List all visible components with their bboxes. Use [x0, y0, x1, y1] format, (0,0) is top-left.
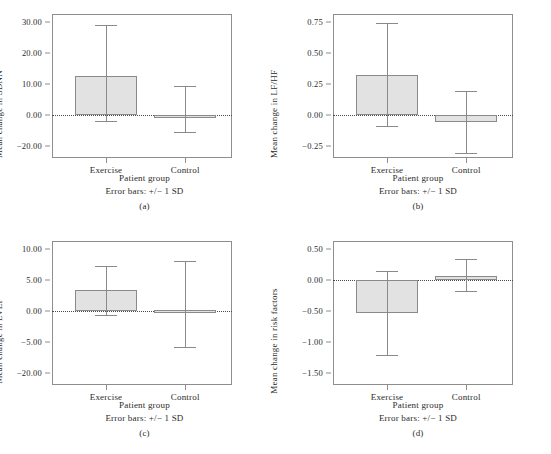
error-cap-control-lower — [174, 347, 196, 348]
panel-d-y-tick — [326, 342, 331, 343]
panel-a-x-tick — [106, 158, 107, 163]
error-cap-exercise-upper — [376, 23, 398, 24]
error-cap-control-lower — [455, 153, 477, 154]
panel-d-x-axis-title: Patient group — [275, 400, 551, 410]
figure-panel-grid: Mean change in SDNN 30.0020.0010.000.00−… — [0, 0, 551, 454]
panel-a-y-tick — [45, 53, 50, 54]
panel-d-y-tick — [326, 373, 331, 374]
error-bar-exercise — [387, 23, 388, 126]
panel-d-plot-area — [333, 241, 513, 385]
panel-c-y-tick-label: 5.00 — [26, 275, 42, 285]
panel-b-y-axis-label: Mean change in LF/HF — [269, 69, 279, 157]
panel-c-x-axis-title: Patient group — [0, 400, 275, 410]
error-cap-exercise-upper — [376, 271, 398, 272]
panel-a: Mean change in SDNN 30.0020.0010.000.00−… — [0, 0, 275, 227]
panel-c-y-tick-label: −20.00 — [17, 368, 42, 378]
error-bar-exercise — [106, 25, 107, 120]
panel-d-y-tick-label: −1.00 — [302, 337, 323, 347]
error-cap-exercise-upper — [95, 266, 117, 267]
error-bar-exercise — [106, 266, 107, 315]
panel-b-id: (b) — [275, 201, 551, 211]
panel-b-x-tick — [466, 158, 467, 163]
panel-d-y-tick — [326, 249, 331, 250]
error-cap-control-upper — [174, 261, 196, 262]
panel-c-x-tick — [185, 385, 186, 390]
panel-d: Mean change in risk factors 0.500.00−0.5… — [275, 227, 551, 454]
panel-c-y-tick — [45, 311, 50, 312]
panel-a-y-tick — [45, 115, 50, 116]
panel-b-y-tick-label: 0.50 — [307, 48, 323, 58]
panel-d-x-tick — [466, 385, 467, 390]
panel-b-y-tick-label: 0.75 — [307, 17, 323, 27]
panel-b-y-tick-label: −0.25 — [302, 141, 323, 151]
panel-c-y-tick — [45, 280, 50, 281]
panel-c-y-tick-label: 0.00 — [26, 306, 42, 316]
error-cap-exercise-lower — [376, 126, 398, 127]
error-bar-control — [466, 91, 467, 153]
panel-d-y-tick-label: 0.50 — [307, 244, 323, 254]
panel-c-y-tick-label: −5.00 — [21, 337, 42, 347]
panel-a-plot: 30.0020.0010.000.00−20.00 ExerciseContro… — [52, 14, 232, 158]
panel-d-y-tick-label: 0.00 — [307, 275, 323, 285]
panel-a-y-tick — [45, 22, 50, 23]
error-cap-control-upper — [174, 86, 196, 87]
panel-a-y-axis-label: Mean change in SDNN — [0, 69, 4, 157]
panel-b-x-tick — [387, 158, 388, 163]
panel-a-y-tick-label: 0.00 — [26, 110, 42, 120]
panel-b-y-tick — [326, 115, 331, 116]
panel-c: Mean change in LVEF 10.005.000.00−5.00−2… — [0, 227, 275, 454]
panel-d-y-tick-label: −1.50 — [302, 368, 323, 378]
panel-c-y-tick — [45, 249, 50, 250]
panel-b-x-axis-title: Patient group — [275, 173, 551, 183]
panel-c-x-tick — [106, 385, 107, 390]
panel-c-plot: 10.005.000.00−5.00−20.00 ExerciseControl — [52, 241, 232, 385]
panel-c-y-tick-label: 10.00 — [22, 244, 42, 254]
panel-b-y-tick — [326, 22, 331, 23]
panel-a-id: (a) — [0, 201, 275, 211]
error-cap-control-upper — [455, 91, 477, 92]
panel-b-y-tick — [326, 146, 331, 147]
panel-d-y-tick — [326, 311, 331, 312]
panel-b-y-tick — [326, 84, 331, 85]
panel-a-x-tick — [185, 158, 186, 163]
panel-c-error-note: Error bars: +/− 1 SD — [0, 413, 275, 423]
panel-b-plot-area — [333, 14, 513, 158]
panel-d-y-tick-label: −0.50 — [302, 306, 323, 316]
panel-d-y-axis-label: Mean change in risk factors — [269, 288, 279, 393]
error-cap-control-upper — [455, 259, 477, 260]
error-cap-control-lower — [174, 132, 196, 133]
panel-a-y-tick-label: 20.00 — [22, 48, 42, 58]
panel-d-plot: 0.500.00−0.50−1.00−1.50 ExerciseControl — [333, 241, 513, 385]
panel-a-y-tick-label: 10.00 — [22, 79, 42, 89]
panel-a-y-tick-label: −20.00 — [17, 141, 42, 151]
panel-a-plot-area — [52, 14, 232, 158]
error-bar-control — [185, 86, 186, 132]
panel-c-y-tick — [45, 373, 50, 374]
error-cap-exercise-lower — [376, 355, 398, 356]
panel-a-y-tick-label: 30.00 — [22, 17, 42, 27]
error-bar-control — [466, 259, 467, 291]
error-cap-exercise-upper — [95, 25, 117, 26]
panel-a-error-note: Error bars: +/− 1 SD — [0, 186, 275, 196]
panel-b-plot: 0.750.500.250.00−0.25 ExerciseControl — [333, 14, 513, 158]
panel-b-y-tick-label: 0.00 — [307, 110, 323, 120]
panel-d-error-note: Error bars: +/− 1 SD — [275, 413, 551, 423]
panel-b-y-tick — [326, 53, 331, 54]
panel-a-y-tick — [45, 146, 50, 147]
error-bar-exercise — [387, 271, 388, 355]
panel-b-y-tick-label: 0.25 — [307, 79, 323, 89]
error-bar-control — [185, 261, 186, 347]
panel-b-error-note: Error bars: +/− 1 SD — [275, 186, 551, 196]
error-cap-control-lower — [455, 291, 477, 292]
panel-a-y-tick — [45, 84, 50, 85]
error-cap-exercise-lower — [95, 315, 117, 316]
panel-c-id: (c) — [0, 428, 275, 438]
panel-a-x-axis-title: Patient group — [0, 173, 275, 183]
panel-d-x-tick — [387, 385, 388, 390]
panel-c-plot-area — [52, 241, 232, 385]
panel-d-id: (d) — [275, 428, 551, 438]
panel-c-y-axis-label: Mean change in LVEF — [0, 298, 4, 383]
error-cap-exercise-lower — [95, 121, 117, 122]
panel-d-y-tick — [326, 280, 331, 281]
panel-b: Mean change in LF/HF 0.750.500.250.00−0.… — [275, 0, 551, 227]
